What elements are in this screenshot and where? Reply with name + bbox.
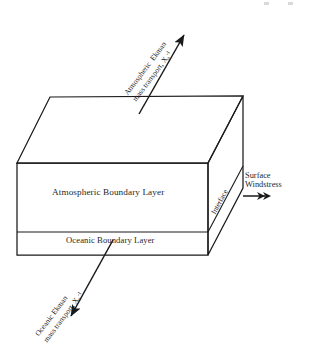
surface-windstress-arrow <box>243 192 271 200</box>
surface-windstress-label: SurfaceWindstress <box>245 172 282 190</box>
windstress-line2: Windstress <box>245 180 282 189</box>
box-top-face <box>17 96 243 163</box>
oceanic-boundary-layer-label: Oceanic Boundary Layer <box>66 236 155 246</box>
atmospheric-boundary-layer-label: Atmospheric Boundary Layer <box>52 187 164 197</box>
boundary-layer-figure: Atmospheric Boundary Layer Oceanic Bound… <box>0 0 311 345</box>
windstress-line1: Surface <box>245 171 271 180</box>
